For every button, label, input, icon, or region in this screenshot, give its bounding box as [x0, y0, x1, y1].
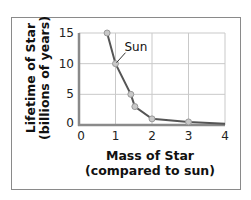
- annotation-leader-line: [117, 53, 126, 63]
- x-tick-label: 4: [221, 129, 229, 143]
- y-tick-label: 5: [66, 87, 74, 101]
- y-tick-label: 0: [66, 116, 74, 130]
- data-point-marker: [128, 91, 134, 97]
- y-axis-label-line-2: (billions of years): [38, 16, 52, 140]
- x-tick-label: 3: [185, 129, 193, 143]
- y-axis-label-line-1: Lifetime of Star: [24, 16, 38, 140]
- x-tick-label: 1: [112, 129, 120, 143]
- x-axis-label-line-2: (compared to sun): [70, 163, 230, 178]
- x-axis-label: Mass of Star (compared to sun): [70, 148, 230, 178]
- annotation-sun-label: Sun: [125, 40, 148, 54]
- x-tick-label: 2: [148, 129, 156, 143]
- x-tick-label: 0: [77, 129, 85, 143]
- data-point-marker: [186, 119, 192, 125]
- data-point-marker: [132, 104, 138, 110]
- x-axis-label-line-1: Mass of Star: [70, 148, 230, 163]
- data-point-marker: [149, 116, 155, 122]
- y-axis-label: Lifetime of Star (billions of years): [14, 28, 62, 128]
- data-point-marker: [104, 30, 110, 36]
